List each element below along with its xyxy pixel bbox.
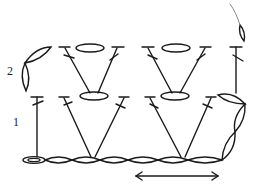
chain-stitch-icon xyxy=(222,132,235,160)
chain-space-icon xyxy=(161,92,189,100)
row2-dc-right xyxy=(230,47,243,93)
turning-chain-row2 xyxy=(22,47,51,91)
chain-stitch-icon xyxy=(22,63,29,91)
chain-stitch-icon xyxy=(72,157,100,163)
crochet-chart-svg xyxy=(0,0,261,191)
chain-stitch-icon xyxy=(158,157,188,163)
row1-v-group-2 xyxy=(145,92,216,157)
chain-stitch-icon xyxy=(188,157,222,163)
crochet-chart: 2 1 xyxy=(0,0,261,191)
slip-knot-inner-icon xyxy=(28,158,40,161)
foundation-chain xyxy=(23,157,222,164)
chain-stitch-icon xyxy=(25,47,51,63)
yarn-end-icon xyxy=(230,4,240,25)
chain-stitch-icon xyxy=(45,157,72,163)
chain-stitch-icon xyxy=(218,94,245,104)
yarn-end-icon xyxy=(240,25,245,41)
chain-stitch-icon xyxy=(234,104,245,132)
slip-knot-icon xyxy=(23,157,45,164)
row-label-1: 1 xyxy=(13,116,19,128)
yarn-tail xyxy=(230,4,245,41)
row1-dc-left xyxy=(31,97,43,157)
row-label-2: 2 xyxy=(7,65,13,77)
chain-space-icon xyxy=(76,44,104,52)
chain-space-icon xyxy=(162,44,190,52)
chain-space-icon xyxy=(80,92,108,100)
turning-chain-row1 xyxy=(218,94,245,160)
row2-v-group-1 xyxy=(59,44,124,93)
chain-stitch-icon xyxy=(100,157,128,163)
row1-v-group-1 xyxy=(59,92,129,157)
repeat-arrow xyxy=(136,172,218,180)
row2-v-group-2 xyxy=(142,44,211,93)
chain-stitch-icon xyxy=(128,157,158,163)
